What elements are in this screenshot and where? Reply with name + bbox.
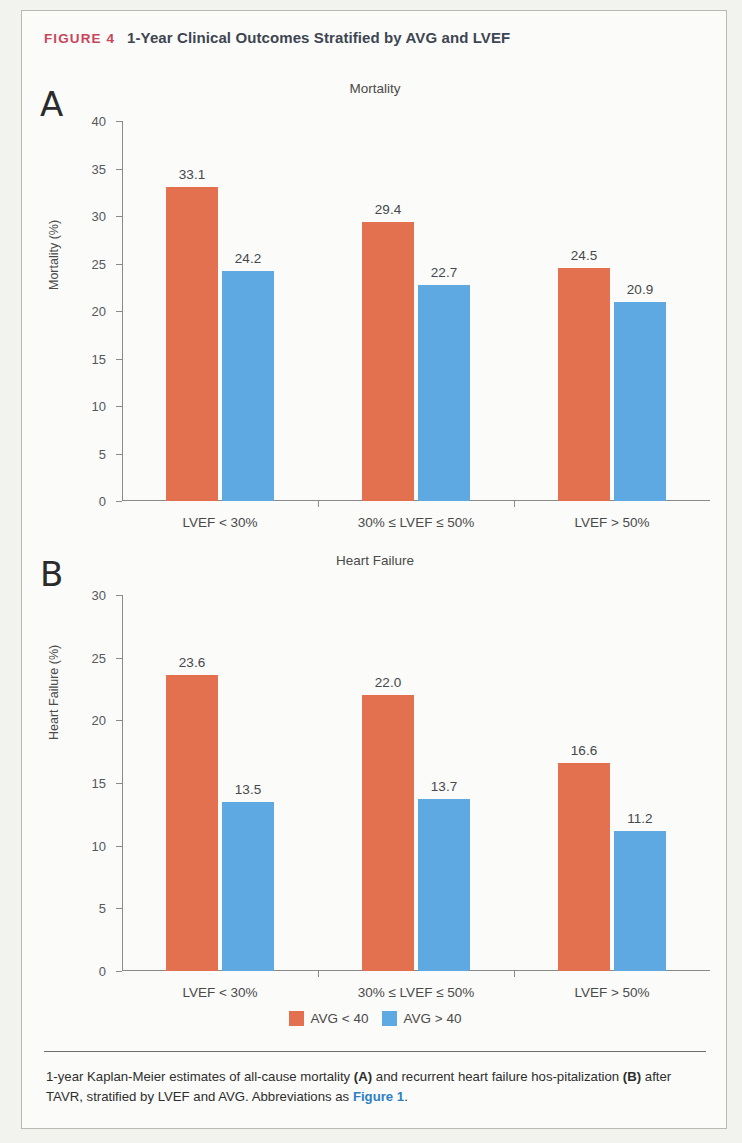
bar-value-label: 13.5 [235,782,261,797]
panel-b-heart-failure: B Heart Failure Heart Failure (%) 051015… [22,543,728,1013]
x-axis-tick [514,971,515,977]
bar-value-label: 20.9 [627,282,653,297]
y-axis-tick-label: 10 [92,399,106,414]
bar-value-label: 11.2 [627,811,652,826]
bar[interactable]: 22.7 [418,285,470,501]
bar-group: 22.013.730% ≤ LVEF ≤ 50% [318,595,514,971]
bar-value-label: 29.4 [375,202,401,217]
caption-bold-a: (A) [354,1069,372,1084]
x-axis-tick [318,971,319,977]
legend-label: AVG > 40 [404,1011,462,1026]
y-axis-tick-label: 40 [92,114,106,129]
page-background: FIGURE 4 1-Year Clinical Outcomes Strati… [0,0,742,1143]
bar-group: 23.613.5LVEF < 30% [122,595,318,971]
y-axis-tick-label: 20 [92,304,106,319]
bar[interactable]: 24.5 [558,268,610,501]
bar[interactable]: 29.4 [362,222,414,501]
legend-label: AVG < 40 [311,1011,369,1026]
bar-value-label: 22.0 [375,675,401,690]
figure-header: FIGURE 4 1-Year Clinical Outcomes Strati… [44,29,704,53]
bar[interactable]: 24.2 [222,271,274,501]
bar-value-label: 22.7 [431,265,457,280]
panel-a-plot-area: 051015202530354033.124.2LVEF < 30%29.422… [122,121,710,501]
legend-item[interactable]: AVG < 40 [289,1011,369,1026]
figure-number-tag: FIGURE 4 [44,31,115,46]
bar-value-label: 13.7 [431,779,457,794]
caption-divider [44,1051,706,1052]
bar-value-label: 16.6 [571,743,597,758]
x-axis-category-label: LVEF < 30% [182,515,257,530]
bar[interactable]: 13.7 [418,799,470,971]
bar[interactable]: 23.6 [166,675,218,971]
x-axis-category-label: 30% ≤ LVEF ≤ 50% [358,515,475,530]
y-axis-tick-label: 0 [99,964,106,979]
bar-group: 33.124.2LVEF < 30% [122,121,318,501]
y-axis-tick-label: 15 [92,351,106,366]
y-axis-tick-label: 25 [92,256,106,271]
y-axis-tick-label: 5 [99,901,106,916]
bar[interactable]: 33.1 [166,187,218,501]
legend-item[interactable]: AVG > 40 [382,1011,462,1026]
caption-bold-b: (B) [623,1069,641,1084]
caption-text-1: 1-year Kaplan-Meier estimates of all-cau… [46,1069,354,1084]
chart-legend: AVG < 40AVG > 40 [22,1011,728,1026]
panel-b-title: Heart Failure [22,553,728,568]
y-axis-tick-label: 20 [92,713,106,728]
bar-group: 29.422.730% ≤ LVEF ≤ 50% [318,121,514,501]
bar[interactable]: 11.2 [614,831,666,971]
bar-value-label: 33.1 [179,167,205,182]
figure-container: FIGURE 4 1-Year Clinical Outcomes Strati… [21,10,727,1129]
y-axis-tick-label: 15 [92,776,106,791]
figure-caption: 1-year Kaplan-Meier estimates of all-cau… [46,1067,706,1108]
caption-text-4: . [404,1089,408,1104]
figure-1-link[interactable]: Figure 1 [353,1089,404,1104]
y-axis-tick-label: 35 [92,161,106,176]
y-axis-tick: 0 [116,971,122,972]
legend-color-swatch [289,1011,304,1026]
x-axis-category-label: LVEF > 50% [574,515,649,530]
x-axis-category-label: LVEF < 30% [182,985,257,1000]
figure-title: 1-Year Clinical Outcomes Stratified by A… [127,29,510,46]
bar-value-label: 24.5 [571,248,597,263]
y-axis-tick: 0 [116,501,122,502]
panel-b-plot-area: 05101520253023.613.5LVEF < 30%22.013.730… [122,595,710,971]
bar-value-label: 23.6 [179,655,205,670]
x-axis-tick [514,501,515,507]
x-axis-category-label: LVEF > 50% [574,985,649,1000]
bar[interactable]: 20.9 [614,302,666,501]
y-axis-tick-label: 30 [92,588,106,603]
y-axis-tick-label: 30 [92,209,106,224]
caption-text-2: and recurrent heart failure hos-pitaliza… [372,1069,623,1084]
y-axis-tick-label: 5 [99,446,106,461]
panel-a-title: Mortality [22,81,728,96]
y-axis-tick-label: 25 [92,650,106,665]
bar-value-label: 24.2 [235,251,261,266]
bar-group: 24.520.9LVEF > 50% [514,121,710,501]
bar[interactable]: 13.5 [222,802,274,971]
panel-a-mortality: A Mortality Mortality (%) 05101520253035… [22,73,728,543]
bar[interactable]: 22.0 [362,695,414,971]
panel-b-y-axis-label: Heart Failure (%) [44,723,64,737]
panel-a-y-axis-label: Mortality (%) [44,273,64,287]
bar[interactable]: 16.6 [558,763,610,971]
y-axis-tick-label: 10 [92,838,106,853]
y-axis-tick-label: 0 [99,494,106,509]
x-axis-category-label: 30% ≤ LVEF ≤ 50% [358,985,475,1000]
x-axis-tick [318,501,319,507]
legend-color-swatch [382,1011,397,1026]
bar-group: 16.611.2LVEF > 50% [514,595,710,971]
